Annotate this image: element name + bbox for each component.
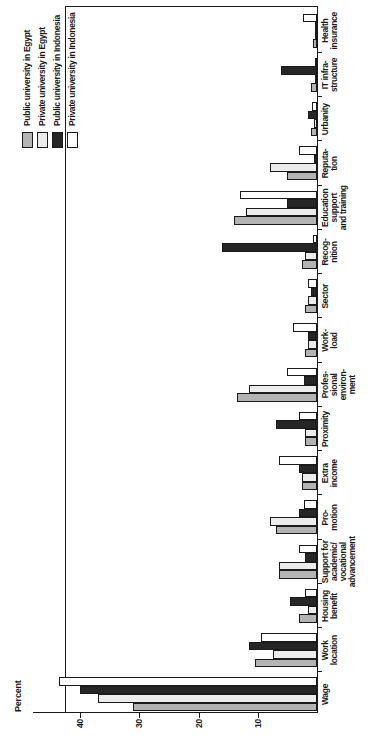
bar — [287, 199, 317, 208]
bar — [287, 172, 317, 181]
x-axis-label: IT infra-structure — [321, 49, 339, 101]
bar — [308, 111, 317, 120]
plot-frame-right — [65, 6, 318, 7]
bar — [311, 128, 317, 137]
bar — [305, 305, 317, 314]
bar — [299, 465, 317, 474]
x-axis-label-line: tion — [330, 138, 339, 190]
bar — [279, 570, 317, 579]
bar — [290, 598, 317, 607]
bar — [314, 119, 317, 128]
bar — [313, 39, 317, 48]
x-axis-label-line: advancement — [348, 536, 357, 588]
x-axis-line — [317, 6, 318, 713]
bar — [314, 155, 317, 164]
x-axis-label-line: ment — [348, 359, 357, 411]
y-tick-mark — [258, 713, 259, 718]
bar — [315, 58, 317, 67]
bar — [305, 553, 317, 562]
x-axis-label: Sector — [321, 270, 330, 322]
x-axis-label-line: Sector — [321, 270, 330, 322]
bar — [281, 67, 317, 76]
x-axis-label: Support foracademic/vocationaladvancemen… — [321, 536, 357, 588]
x-axis-label: Housingbenefit — [321, 580, 339, 632]
bar — [308, 296, 317, 305]
x-axis-label-line: Proximity — [321, 403, 330, 455]
x-axis-label-line: location — [330, 624, 339, 676]
bar — [302, 482, 317, 491]
y-tick-label: 30 — [134, 719, 144, 740]
legend-swatch — [52, 132, 63, 148]
bar — [308, 606, 317, 615]
y-tick-mark — [199, 713, 200, 718]
bar — [299, 147, 317, 156]
x-axis-label-line: Wage — [321, 669, 330, 721]
y-tick-label: 40 — [75, 719, 85, 740]
bar-chart: Percent 10203040 WageWorklocationHousing… — [0, 0, 375, 751]
bar — [303, 14, 317, 23]
y-tick-mark — [80, 713, 81, 718]
x-axis-label: Extraincome — [321, 447, 339, 499]
x-axis-label-line: motion — [330, 492, 339, 544]
x-axis-label-line: insurance — [330, 5, 339, 57]
x-axis-label: Healthinsurance — [321, 5, 339, 57]
bar — [270, 518, 317, 527]
x-axis-label-line: nition — [330, 226, 339, 278]
bar — [302, 261, 317, 270]
bar — [299, 615, 317, 624]
legend-label: Private university in Indonesia — [67, 12, 78, 126]
bar — [311, 288, 317, 297]
x-axis-label-line: structure — [330, 49, 339, 101]
bar — [240, 191, 317, 200]
y-tick-label: 10 — [253, 719, 263, 740]
bar — [312, 102, 317, 111]
bar — [276, 526, 317, 535]
bar — [273, 650, 317, 659]
x-axis-label: Proximity — [321, 403, 330, 455]
bar — [293, 324, 317, 333]
bar — [315, 75, 317, 84]
bar — [302, 473, 317, 482]
legend-swatch — [37, 132, 48, 148]
bar — [311, 84, 317, 93]
bar — [308, 279, 317, 288]
bar — [133, 703, 317, 712]
legend-swatch — [67, 132, 78, 148]
legend-swatch — [22, 132, 33, 148]
plot-frame-top — [65, 6, 66, 713]
x-axis-label-line: load — [330, 315, 339, 367]
bar — [315, 31, 317, 40]
bar — [270, 164, 317, 173]
bar — [222, 244, 317, 253]
x-axis-label: Reputa-tion — [321, 138, 339, 190]
x-axis-label: Wage — [321, 669, 330, 721]
bar — [305, 252, 317, 261]
figure-page: Percent 10203040 WageWorklocationHousing… — [0, 0, 375, 751]
y-axis-line — [33, 712, 318, 713]
bar — [249, 642, 317, 651]
x-axis-label: Profes-sionalenviron-ment — [321, 359, 357, 411]
bar — [299, 412, 317, 421]
x-axis-label: Pro-motion — [321, 492, 339, 544]
x-axis-label: Worklocation — [321, 624, 339, 676]
bar — [308, 341, 317, 350]
legend-label: Public university in Egypt — [22, 30, 33, 126]
bar — [304, 501, 317, 510]
bar — [279, 456, 317, 465]
bar — [261, 633, 317, 642]
bar — [313, 235, 317, 244]
bar — [305, 589, 317, 598]
x-axis-label: Urbanity — [321, 93, 330, 145]
bar — [299, 545, 317, 554]
bar — [234, 216, 317, 225]
x-axis-label: Work-load — [321, 315, 339, 367]
bar — [255, 659, 317, 668]
bar — [315, 22, 317, 31]
bar — [305, 429, 317, 438]
x-axis-label-line: income — [330, 447, 339, 499]
x-axis-label-line: and training — [339, 182, 348, 234]
y-tick-label: 20 — [194, 719, 204, 740]
x-axis-label-line: benefit — [330, 580, 339, 632]
bar — [246, 208, 317, 217]
bar — [276, 421, 317, 430]
